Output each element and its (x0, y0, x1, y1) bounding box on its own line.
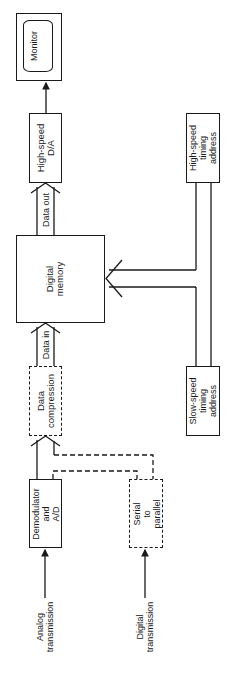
dac-label: High-speed D/A (31, 113, 61, 183)
compression-input-arrow (31, 436, 60, 479)
high-speed-timing-label: High-speed timing address (187, 113, 219, 183)
data-out-label: Data out (39, 186, 53, 234)
demodulator-label: Demodulator and A/D (30, 480, 62, 549)
data-in-label: Data in (39, 325, 53, 365)
serial-dashed-paths (53, 455, 153, 479)
timing-address-bus (106, 183, 211, 366)
serial-to-parallel-label: Serial to parallel (130, 480, 162, 549)
slow-speed-timing-label: Slow-speed timing address (187, 366, 219, 436)
compression-label: Data compression (31, 366, 61, 436)
analog-transmission-label: Analog transmission (33, 596, 57, 658)
diagram-connections (0, 0, 226, 676)
memory-label: Digital memory (40, 249, 70, 309)
digital-transmission-label: Digital transmission (133, 596, 157, 658)
monitor-label: Monitor (26, 20, 42, 72)
